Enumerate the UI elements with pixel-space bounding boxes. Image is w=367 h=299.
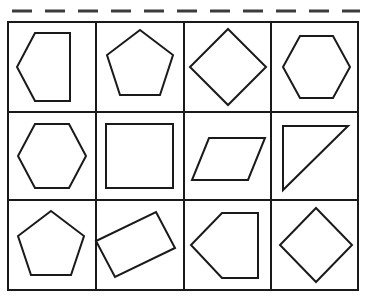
- right-triangle: [283, 126, 348, 190]
- worksheet-canvas: [0, 0, 367, 299]
- square: [106, 124, 173, 188]
- diamond-square-rotated: [280, 208, 352, 282]
- pentagon-pointing-left: [17, 33, 70, 101]
- shapes-worksheet: [0, 0, 367, 299]
- hexagon-flat-top: [283, 36, 350, 98]
- hexagon-flat-top: [18, 124, 86, 188]
- regular-pentagon: [107, 30, 173, 95]
- parallelogram: [192, 138, 265, 180]
- regular-pentagon: [18, 211, 84, 275]
- diamond-square-rotated: [190, 29, 266, 105]
- rectangle-rotated: [96, 212, 175, 277]
- pentagon-pointing-left: [191, 213, 258, 278]
